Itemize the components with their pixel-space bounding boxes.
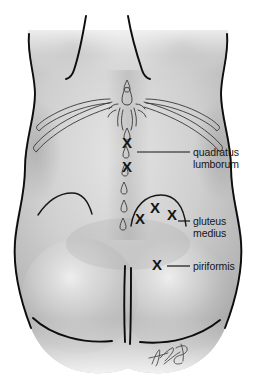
anatomical-figure: X X X X X X quadratus lumborum gluteus m… [0, 0, 258, 383]
trigger-point-marker-gm-left: X [135, 210, 145, 227]
trigger-point-marker-ql-lower: X [122, 158, 132, 175]
trigger-point-marker-ql-upper: X [122, 134, 132, 151]
trigger-point-marker-gm-mid: X [150, 199, 160, 216]
trigger-point-diagram: X X X X X X quadratus lumborum gluteus m… [0, 0, 258, 383]
label-gluteus-medius-line2: medius [193, 227, 226, 239]
top-fade [0, 0, 258, 74]
label-quadratus-lumborum-line1: quadratus [193, 146, 239, 158]
label-piriformis: piriformis [193, 260, 235, 272]
gluteal-cleft-left [124, 266, 125, 342]
label-quadratus-lumborum-line2: lumborum [193, 158, 239, 170]
label-gluteus-medius-line1: gluteus [193, 215, 226, 227]
gluteal-cleft-right [130, 268, 131, 344]
trigger-point-marker-gm-right: X [167, 206, 177, 223]
sacral-shadow [66, 218, 190, 270]
trigger-point-marker-piriformis: X [152, 256, 162, 273]
body-shading [0, 0, 258, 383]
bottom-fade [0, 318, 258, 383]
